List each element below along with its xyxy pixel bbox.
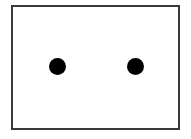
dot-left bbox=[49, 58, 66, 75]
figure-canvas: Two solid black dots inside a thin recta… bbox=[0, 0, 191, 139]
rectangle-border bbox=[11, 5, 180, 130]
dot-right bbox=[127, 58, 144, 75]
